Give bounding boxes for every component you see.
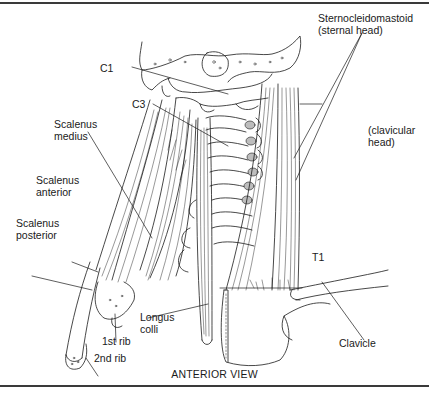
label-scalenus-anterior: Scalenus anterior	[36, 174, 79, 198]
label-scalenus-posterior: Scalenus posterior	[16, 217, 59, 241]
sternocleidomastoid	[226, 84, 300, 290]
sternum-and-clavicle	[221, 270, 388, 366]
label-scalenus-medius-line1: Scalenus	[54, 118, 97, 130]
upper-cervical-vertebrae	[162, 74, 272, 112]
longus-colli	[197, 118, 212, 345]
label-c1: C1	[100, 62, 113, 74]
label-scalenus-medius-line2: medius	[54, 130, 97, 142]
skull-base	[140, 36, 301, 90]
label-scalenus-posterior-line1: Scalenus	[16, 217, 59, 229]
leader-lines	[32, 33, 364, 376]
label-scalenus-medius: Scalenus medius	[54, 118, 97, 142]
label-longus-colli-line1: Longus	[140, 311, 174, 323]
label-clavicle: Clavicle	[339, 337, 376, 349]
label-clavicular-head-line1: (clavicular	[368, 124, 415, 136]
label-sternocleidomastoid-line1: Sternocleidomastoid	[318, 12, 413, 24]
label-clavicular-head-line2: head)	[368, 136, 415, 148]
figure-caption: ANTERIOR VIEW	[0, 368, 429, 380]
label-scalenus-anterior-line1: Scalenus	[36, 174, 79, 186]
label-scalenus-anterior-line2: anterior	[36, 186, 79, 198]
label-t1: T1	[312, 251, 324, 263]
label-c3: C3	[132, 98, 145, 110]
label-sternocleidomastoid: Sternocleidomastoid (sternal head)	[318, 12, 413, 36]
label-scalenus-posterior-line2: posterior	[16, 229, 59, 241]
label-longus-colli: Longus colli	[140, 311, 174, 335]
label-second-rib: 2nd rib	[94, 352, 126, 364]
label-clavicular-head: (clavicular head)	[368, 124, 415, 148]
label-sternocleidomastoid-line2: (sternal head)	[318, 24, 413, 36]
label-first-rib: 1st rib	[102, 335, 131, 347]
label-longus-colli-line2: colli	[140, 323, 174, 335]
